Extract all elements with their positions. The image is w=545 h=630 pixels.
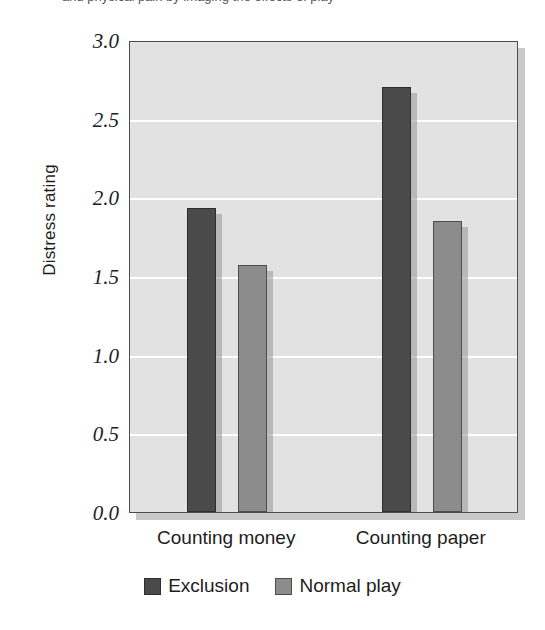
legend-swatch-icon	[275, 578, 292, 595]
bar-exclusion-counting-paper	[382, 87, 411, 512]
gridline	[130, 120, 517, 122]
bar-chart-figure: Distress rating 3.02.52.01.51.00.50.0 Co…	[0, 0, 545, 630]
y-axis-tick-label: 2.5	[59, 107, 119, 132]
legend-label: Exclusion	[168, 575, 249, 597]
y-axis-tick-label: 1.0	[59, 343, 119, 368]
bar-exclusion-counting-money	[187, 208, 216, 512]
plot-area	[129, 41, 518, 513]
y-axis-tick-labels: 3.02.52.01.51.00.50.0	[57, 0, 119, 630]
x-axis-category-label: Counting paper	[356, 527, 486, 549]
y-axis-tick-label: 1.5	[59, 265, 119, 290]
y-axis-tick-label: 3.0	[59, 29, 119, 54]
legend-item-normal-play[interactable]: Normal play	[275, 575, 400, 597]
y-axis-tick-label: 0.5	[59, 422, 119, 447]
legend-label: Normal play	[299, 575, 400, 597]
legend-item-exclusion[interactable]: Exclusion	[144, 575, 249, 597]
chart-legend: ExclusionNormal play	[0, 575, 545, 597]
bar-normal-play-counting-paper	[433, 221, 462, 512]
x-axis-category-label: Counting money	[157, 527, 295, 549]
legend-swatch-icon	[144, 578, 161, 595]
x-axis-category-labels: Counting moneyCounting paper	[129, 527, 518, 557]
y-axis-tick-label: 2.0	[59, 186, 119, 211]
y-axis-tick-label: 0.0	[59, 501, 119, 526]
bar-normal-play-counting-money	[238, 265, 267, 512]
gridline	[130, 198, 517, 200]
